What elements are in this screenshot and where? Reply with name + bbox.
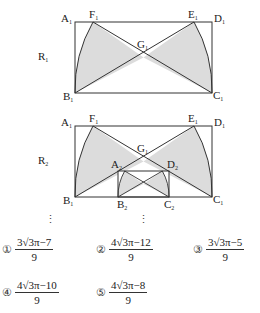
label-b2: B2 (117, 198, 127, 211)
option-marker: ① (1, 243, 13, 256)
figure-area: R1 A1 F1 E1 D1 G1 B1 C1 R2 A1 F1 E1 D1 G… (0, 0, 260, 230)
numerator: 4√3π−10 (15, 279, 59, 293)
label-r2: R2 (38, 154, 48, 167)
option-4[interactable]: ④ 4√3π−10 9 (1, 279, 59, 306)
option-marker: ④ (1, 286, 13, 299)
option-3[interactable]: ③ 3√3π−5 9 (192, 236, 244, 263)
denominator: 9 (128, 250, 134, 263)
fraction: 4√3π−12 9 (109, 236, 153, 263)
denominator: 9 (125, 293, 131, 306)
option-marker: ③ (192, 243, 204, 256)
numerator: 4√3π−8 (109, 279, 147, 293)
numerator: 4√3π−12 (109, 236, 153, 250)
label-g1: G1 (137, 142, 148, 155)
label-f1: F1 (89, 112, 98, 125)
label-c1: C1 (213, 89, 223, 102)
label-a1: A1 (61, 116, 72, 129)
label-a1: A1 (61, 12, 72, 25)
label-g1: G1 (137, 38, 148, 51)
label-r1: R1 (38, 50, 48, 63)
option-5[interactable]: ⑤ 4√3π−8 9 (95, 279, 147, 306)
ellipsis-left: ⋮ (45, 218, 51, 222)
option-2[interactable]: ② 4√3π−12 9 (95, 236, 153, 263)
numerator: 3√3π−7 (15, 236, 53, 250)
figure-r2: R2 A1 F1 E1 D1 G1 A2 D2 B1 B2 C2 C1 (38, 112, 225, 211)
label-b1: B1 (63, 194, 73, 207)
label-e1: E1 (188, 112, 198, 125)
option-marker: ⑤ (95, 286, 107, 299)
label-f1: F1 (89, 8, 98, 21)
fraction: 3√3π−5 9 (206, 236, 244, 263)
label-d1: D1 (214, 116, 225, 129)
denominator: 9 (34, 293, 40, 306)
denominator: 9 (31, 250, 37, 263)
option-marker: ② (95, 243, 107, 256)
option-1[interactable]: ① 3√3π−7 9 (1, 236, 53, 263)
shaded-region-right (144, 22, 213, 93)
label-b1: B1 (63, 90, 73, 103)
label-d1: D1 (214, 12, 225, 25)
figure-r1: R1 A1 F1 E1 D1 G1 B1 C1 (38, 8, 225, 103)
denominator: 9 (222, 250, 228, 263)
shaded-region-left (75, 22, 144, 93)
fraction: 4√3π−8 9 (109, 279, 147, 306)
fraction: 3√3π−7 9 (15, 236, 53, 263)
label-c2: C2 (164, 198, 174, 211)
label-c1: C1 (213, 193, 223, 206)
label-e1: E1 (188, 8, 198, 21)
numerator: 3√3π−5 (206, 236, 244, 250)
ellipsis-right: ⋮ (138, 218, 144, 222)
fraction: 4√3π−10 9 (15, 279, 59, 306)
